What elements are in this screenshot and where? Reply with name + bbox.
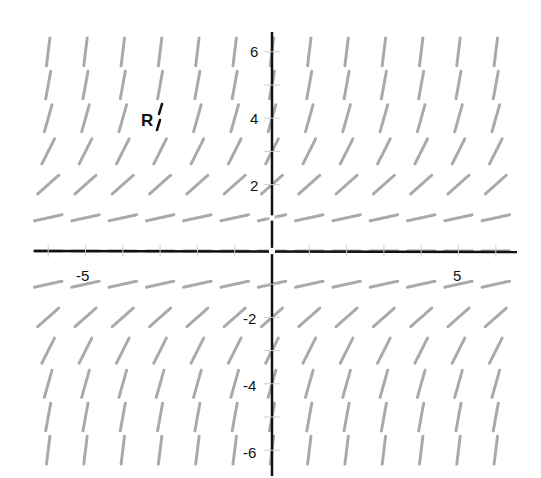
slope-segment bbox=[191, 338, 204, 363]
slope-segment bbox=[457, 436, 460, 464]
slope-segment bbox=[492, 370, 500, 397]
slope-segment bbox=[303, 139, 316, 164]
slope-segment bbox=[83, 403, 88, 431]
slope-segment bbox=[373, 175, 394, 194]
slope-segment bbox=[419, 403, 424, 431]
slope-segment bbox=[221, 281, 248, 287]
slope-segment bbox=[112, 175, 133, 194]
slope-segment bbox=[340, 338, 353, 363]
slope-segment bbox=[224, 175, 245, 194]
slope-segment bbox=[452, 338, 465, 363]
slope-segment bbox=[82, 370, 90, 397]
slope-segment bbox=[121, 436, 124, 464]
slope-segment bbox=[146, 281, 173, 287]
slope-segment bbox=[485, 175, 506, 194]
slope-segment bbox=[378, 139, 391, 164]
slope-segment bbox=[75, 175, 96, 194]
annotation-r-label: R bbox=[141, 111, 153, 130]
slope-segment bbox=[233, 436, 236, 464]
slope-segment bbox=[378, 338, 391, 363]
slope-segment bbox=[408, 281, 435, 287]
slope-segment bbox=[38, 308, 59, 327]
slope-segment bbox=[75, 308, 96, 327]
slope-segment bbox=[194, 370, 202, 397]
slope-segment bbox=[184, 215, 211, 221]
slope-segment bbox=[47, 436, 50, 464]
slope-segment bbox=[158, 38, 161, 66]
slope-segment bbox=[296, 215, 323, 221]
slope-segment bbox=[490, 338, 503, 363]
slope-segment bbox=[194, 105, 202, 132]
slope-segment bbox=[44, 105, 52, 132]
slope-segment bbox=[448, 175, 469, 194]
slope-segment bbox=[344, 403, 349, 431]
slope-segment bbox=[150, 308, 171, 327]
slope-segment bbox=[38, 175, 59, 194]
slope-segment bbox=[448, 308, 469, 327]
slope-segment bbox=[308, 436, 311, 464]
slope-segment bbox=[228, 139, 241, 164]
slope-segment bbox=[154, 338, 167, 363]
slope-segment bbox=[380, 370, 388, 397]
slope-segment bbox=[336, 175, 357, 194]
slope-segment bbox=[417, 370, 425, 397]
slope-segment bbox=[380, 105, 388, 132]
slope-segment bbox=[307, 71, 312, 99]
slope-segment bbox=[146, 215, 173, 221]
slope-segment bbox=[493, 403, 498, 431]
slope-segment bbox=[336, 308, 357, 327]
slope-segment bbox=[79, 338, 92, 363]
slope-segment bbox=[47, 38, 50, 66]
slope-segment bbox=[83, 71, 88, 99]
slope-field-plot: -5 5 6 4 2 -2 -4 -6 R bbox=[0, 0, 541, 478]
slope-segment bbox=[109, 281, 136, 287]
slope-segment bbox=[228, 338, 241, 363]
slope-segment bbox=[79, 139, 92, 164]
y-tick-label-4: 4 bbox=[250, 110, 258, 127]
slope-segment bbox=[44, 370, 52, 397]
slope-segment bbox=[303, 338, 316, 363]
slope-segment bbox=[490, 139, 503, 164]
slope-segment bbox=[455, 370, 463, 397]
slope-segment bbox=[158, 436, 161, 464]
slope-segment bbox=[381, 403, 386, 431]
slope-segment bbox=[117, 139, 130, 164]
slope-segment bbox=[344, 71, 349, 99]
slope-segment bbox=[306, 370, 314, 397]
slope-segment bbox=[35, 215, 62, 221]
y-tick-label-6: 6 bbox=[250, 43, 258, 60]
slope-segment bbox=[485, 308, 506, 327]
slope-segment bbox=[445, 215, 472, 221]
slope-segment bbox=[343, 370, 351, 397]
slope-segment bbox=[299, 308, 320, 327]
slope-segment bbox=[119, 370, 127, 397]
point-marker bbox=[269, 215, 275, 221]
slope-segment bbox=[84, 38, 87, 66]
slope-segment bbox=[117, 338, 130, 363]
slope-segment bbox=[415, 139, 428, 164]
slope-segment bbox=[482, 215, 509, 221]
slope-segment bbox=[120, 71, 125, 99]
slope-segment bbox=[221, 215, 248, 221]
slope-segment bbox=[370, 281, 397, 287]
slope-segment bbox=[456, 403, 461, 431]
x-tick-label-neg5: -5 bbox=[76, 267, 89, 284]
slope-segment bbox=[195, 403, 200, 431]
slope-segment bbox=[296, 281, 323, 287]
slope-segment bbox=[494, 38, 497, 66]
slope-segment bbox=[232, 71, 237, 99]
x-axis bbox=[34, 251, 517, 252]
y-tick-label-neg4: -4 bbox=[243, 377, 256, 394]
slope-segment bbox=[417, 105, 425, 132]
annotation-r-segment bbox=[157, 104, 162, 130]
slope-segment bbox=[452, 139, 465, 164]
slope-segment bbox=[373, 308, 394, 327]
slope-segment bbox=[345, 38, 348, 66]
origin-marker bbox=[269, 248, 275, 254]
slope-segment bbox=[42, 338, 55, 363]
slope-segment bbox=[109, 215, 136, 221]
y-tick-label-2: 2 bbox=[250, 177, 258, 194]
slope-segment bbox=[306, 105, 314, 132]
slope-segment bbox=[84, 436, 87, 464]
y-tick-label-neg2: -2 bbox=[243, 310, 256, 327]
